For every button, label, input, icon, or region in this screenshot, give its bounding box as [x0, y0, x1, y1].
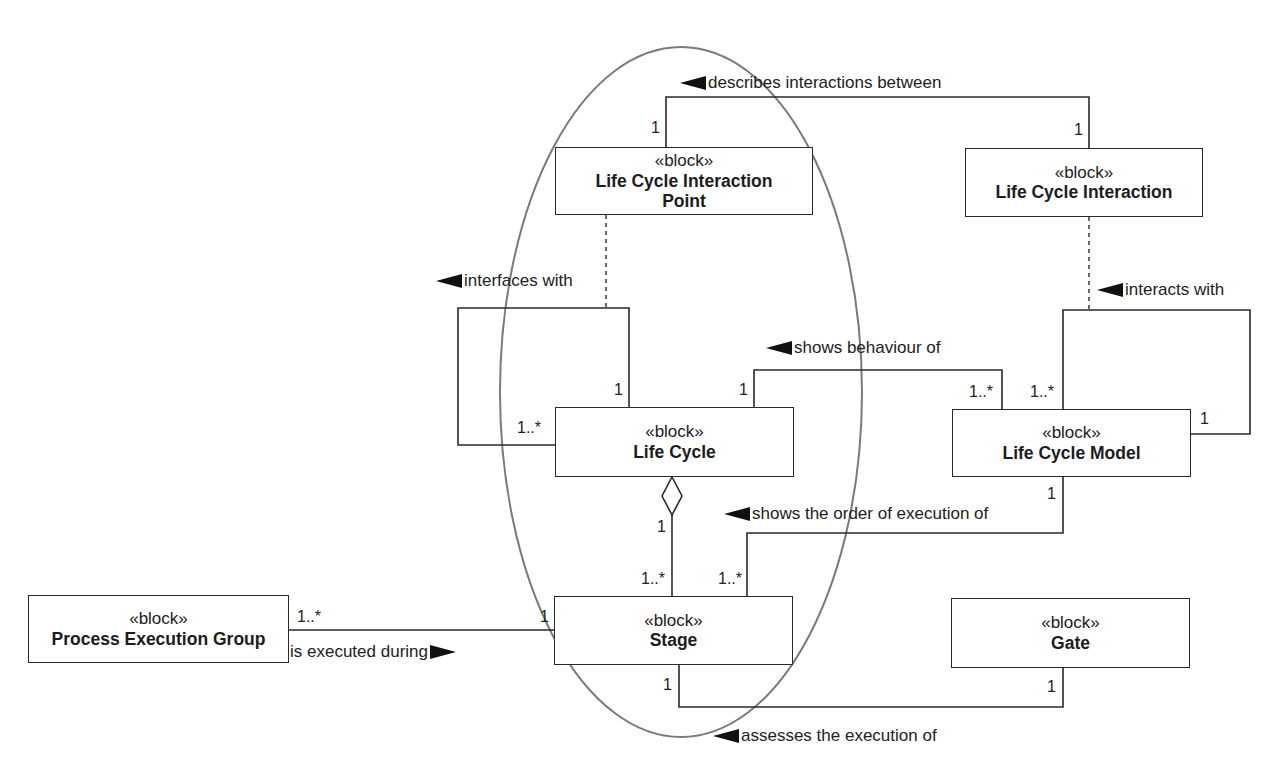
block-name: Life Cycle: [633, 442, 716, 462]
block-name: Life Cycle Interaction: [596, 171, 773, 191]
block-life-cycle-model[interactable]: «block» Life Cycle Model: [952, 409, 1191, 477]
mult-stage-executed: 1: [540, 609, 549, 625]
block-life-cycle-interaction-point[interactable]: «block» Life Cycle Interaction Point: [555, 147, 813, 215]
mult-peg-executed: 1..*: [297, 609, 321, 625]
block-stereotype: «block»: [645, 422, 704, 442]
mult-lc-shows-behaviour: 1: [739, 382, 748, 398]
block-stage[interactable]: «block» Stage: [554, 596, 793, 665]
mult-lcm-interacts-side: 1: [1200, 411, 1209, 427]
mult-lci-describes: 1: [1074, 122, 1083, 138]
block-stereotype: «block»: [129, 609, 188, 629]
block-stereotype: «block»: [655, 151, 714, 171]
block-stereotype: «block»: [1041, 613, 1100, 633]
label-shows-order: shows the order of execution of: [724, 505, 988, 522]
direction-arrow-left-icon: [724, 507, 750, 521]
mult-lc-interfaces-side: 1..*: [517, 420, 541, 436]
direction-arrow-left-icon: [766, 341, 792, 355]
association-describes-interactions: [666, 97, 1089, 148]
mult-stage-shows-order: 1..*: [718, 571, 742, 587]
block-gate[interactable]: «block» Gate: [951, 598, 1190, 668]
direction-arrow-left-icon: [713, 729, 739, 743]
mult-lcm-shows-behaviour: 1..*: [969, 384, 993, 400]
block-stereotype: «block»: [1042, 423, 1101, 443]
association-shows-order: [747, 477, 1063, 596]
block-life-cycle[interactable]: «block» Life Cycle: [555, 407, 794, 477]
mult-aggregation-part: 1..*: [641, 571, 665, 587]
mult-gate-assesses: 1: [1047, 679, 1056, 695]
label-interfaces-with: interfaces with: [436, 272, 573, 289]
block-name: Stage: [650, 630, 698, 650]
mult-lcip-describes: 1: [651, 120, 660, 136]
direction-arrow-left-icon: [680, 76, 706, 90]
block-stereotype: «block»: [1055, 163, 1114, 183]
mult-stage-assesses: 1: [663, 677, 672, 693]
aggregation-diamond: [662, 477, 682, 515]
label-shows-behaviour: shows behaviour of: [766, 339, 940, 356]
mult-lc-interfaces-top: 1: [614, 382, 623, 398]
direction-arrow-right-icon: [430, 645, 456, 659]
mult-aggregation-whole: 1: [657, 519, 666, 535]
association-assesses-execution: [679, 665, 1063, 707]
block-name: Process Execution Group: [52, 629, 266, 649]
block-stereotype: «block»: [644, 611, 703, 631]
mult-lcm-interacts-top: 1..*: [1030, 384, 1054, 400]
block-name-line2: Point: [662, 191, 706, 211]
label-interacts-with: interacts with: [1097, 281, 1224, 298]
direction-arrow-left-icon: [1097, 283, 1123, 297]
association-shows-behaviour: [754, 370, 1002, 409]
label-assesses-execution: assesses the execution of: [713, 727, 937, 744]
label-is-executed-during: is executed during: [290, 643, 456, 660]
mult-lcm-shows-order: 1: [1047, 486, 1056, 502]
block-process-execution-group[interactable]: «block» Process Execution Group: [28, 595, 289, 663]
direction-arrow-left-icon: [436, 274, 462, 288]
block-name: Life Cycle Interaction: [996, 182, 1173, 202]
label-describes-interactions: describes interactions between: [680, 74, 941, 91]
block-name: Gate: [1051, 633, 1090, 653]
block-name: Life Cycle Model: [1002, 443, 1140, 463]
block-life-cycle-interaction[interactable]: «block» Life Cycle Interaction: [965, 148, 1203, 217]
